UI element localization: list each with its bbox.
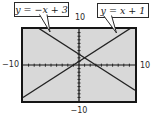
calculator-graph-figure: y = −x + 3 y = x + 1 10 −10 −10 10 xyxy=(0,0,159,121)
y-axis-min-label: −10 xyxy=(70,106,88,116)
equation-callout-1: y = −x + 3 xyxy=(14,2,69,17)
y-axis-max-label: 10 xyxy=(71,13,89,23)
graph-viewing-window xyxy=(21,27,137,103)
x-axis-max-label: 10 xyxy=(140,61,158,71)
equation-callout-2: y = x + 1 xyxy=(97,3,149,18)
x-axis-min-label: −10 xyxy=(0,60,19,70)
plot-canvas xyxy=(23,29,135,101)
